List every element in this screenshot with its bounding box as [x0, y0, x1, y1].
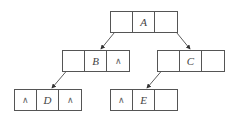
left-pointer-cell	[63, 51, 85, 71]
null-left-cell: ∧	[15, 90, 37, 110]
left-pointer-cell	[158, 51, 180, 71]
right-empty-cell	[202, 51, 224, 71]
node-a: A	[110, 11, 178, 33]
left-pointer-cell	[111, 12, 133, 32]
data-cell: E	[133, 90, 155, 110]
node-c: C	[157, 50, 225, 72]
data-cell: D	[37, 90, 59, 110]
null-right-cell: ∧	[59, 90, 81, 110]
null-left-cell: ∧	[111, 90, 133, 110]
node-e: ∧ E	[110, 89, 178, 111]
null-right-cell: ∧	[107, 51, 129, 71]
node-d: ∧ D ∧	[14, 89, 82, 111]
node-b: B ∧	[62, 50, 130, 72]
data-cell: B	[85, 51, 107, 71]
data-cell: A	[133, 12, 155, 32]
data-cell: C	[180, 51, 202, 71]
right-pointer-cell	[155, 12, 177, 32]
right-empty-cell	[155, 90, 177, 110]
